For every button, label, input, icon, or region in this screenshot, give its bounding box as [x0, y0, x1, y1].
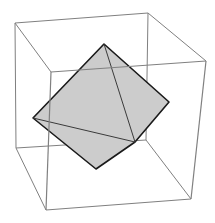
box-edge	[15, 23, 16, 148]
box-edge	[16, 148, 46, 210]
box-edge	[46, 199, 191, 210]
box-edge	[146, 140, 191, 199]
box-edge	[15, 13, 148, 23]
box-edge	[15, 23, 51, 72]
box-edge	[148, 13, 206, 61]
box-edge	[191, 61, 206, 199]
tetrahedron	[33, 44, 169, 169]
tetrahedron-silhouette	[33, 44, 169, 169]
box-edge	[46, 72, 51, 210]
3d-plot	[0, 0, 215, 223]
